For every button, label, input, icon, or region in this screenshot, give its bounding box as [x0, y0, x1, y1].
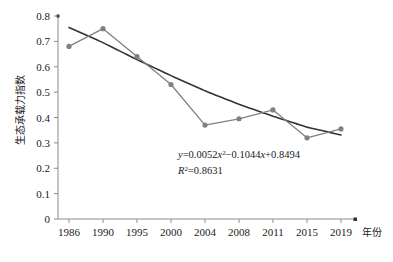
x-axis-title: 年份: [362, 226, 382, 238]
data-point-marker: [100, 26, 105, 31]
x-axis-end-marker: [354, 218, 358, 222]
data-point-marker: [202, 123, 207, 128]
y-axis-tick-label: 0.1: [36, 188, 50, 200]
x-axis-tick-label: 2019: [330, 226, 353, 238]
y-axis-title: 生态承载力指数: [14, 75, 26, 145]
r-squared-annotation: R2=0.8631: [177, 165, 223, 177]
y-axis-tick-label: 0.3: [36, 137, 50, 149]
trendline-equation-annotation: y=0.0052x2−0.1044x+0.8494: [177, 149, 301, 161]
data-point-marker: [338, 126, 343, 131]
data-point-marker: [168, 82, 173, 87]
data-point-marker: [134, 54, 139, 59]
y-axis-tick-label: 0.8: [36, 10, 50, 22]
y-axis-tick-label: 0.7: [36, 35, 50, 47]
x-axis-tick-label: 2015: [296, 226, 319, 238]
y-axis-tick-label: 0.6: [36, 61, 50, 73]
y-axis-tick-label: 0.4: [36, 112, 50, 124]
equation-term3: +0.8494: [265, 149, 301, 160]
data-point-marker: [236, 116, 241, 121]
x-axis-tick-label: 2008: [228, 226, 251, 238]
x-axis-tick-label: 2011: [262, 226, 284, 238]
r-squared-value: 0.8631: [194, 165, 223, 176]
x-axis-tick-label: 1986: [58, 226, 81, 238]
equation-term2: −0.1044: [226, 149, 262, 160]
y-axis-tick-label: 0.5: [36, 86, 50, 98]
x-axis-tick-label: 2000: [160, 226, 183, 238]
equation-term1-coef: 0.0052: [189, 149, 218, 160]
x-axis-tick-label: 1995: [126, 226, 149, 238]
ecological-carrying-capacity-line-chart: 00.10.20.30.40.50.60.70.8 19861990199520…: [0, 0, 393, 262]
y-axis-tick-label: 0.2: [36, 162, 50, 174]
data-point-marker: [66, 44, 71, 49]
data-point-marker: [304, 135, 309, 140]
x-axis-tick-labels: 198619901995200020042008201120152019: [58, 226, 353, 238]
x-axis-tick-label: 2004: [194, 226, 217, 238]
chart-container: 00.10.20.30.40.50.60.70.8 19861990199520…: [0, 0, 393, 262]
x-axis-tick-label: 1990: [92, 226, 115, 238]
data-point-marker: [270, 107, 275, 112]
y-axis-tick-label: 0: [45, 213, 51, 225]
